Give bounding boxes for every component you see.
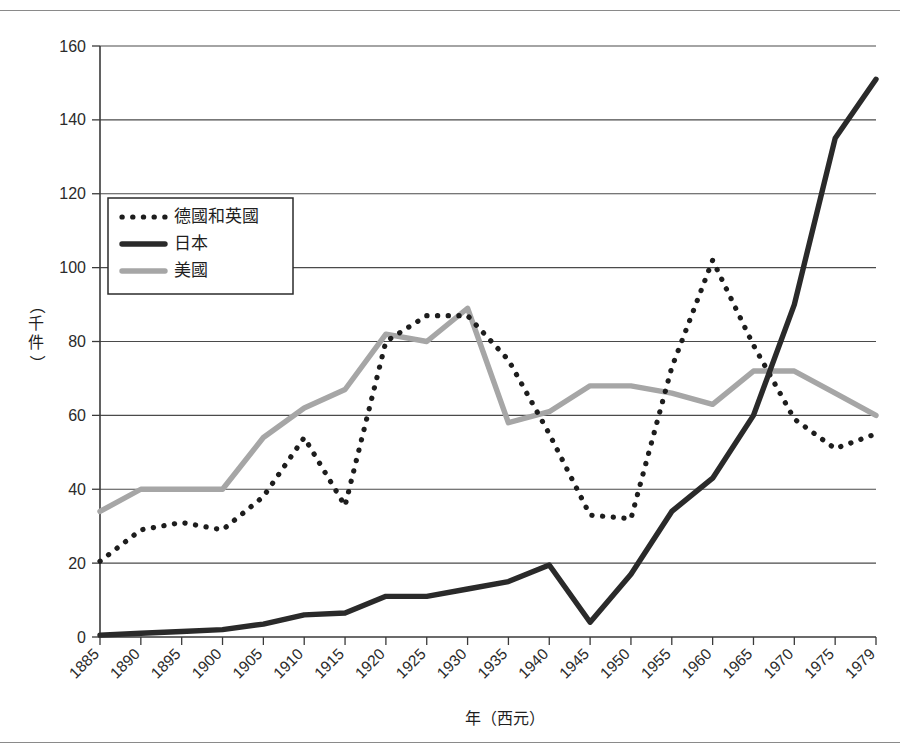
x-tick-label: 1965 [719,645,755,681]
x-tick-label: 1890 [107,645,144,682]
y-tick-label: 100 [59,259,86,276]
series-line [100,260,876,561]
line-chart: 020406080100120140160 188518901895190019… [0,12,900,740]
chart-canvas: 020406080100120140160 188518901895190019… [0,12,900,740]
y-tick-label: 60 [68,407,86,424]
x-tick-label: 1915 [311,645,347,681]
x-tick-label: 1925 [392,645,428,681]
chart-legend: 德國和英國日本美國 [108,198,293,294]
y-axis-ticks: 020406080100120140160 [59,38,100,646]
data-series-group [100,79,876,635]
x-tick-label: 1920 [352,645,389,682]
x-tick-label: 1940 [515,645,552,682]
legend-label: 德國和英國 [174,207,259,226]
y-tick-label: 160 [59,38,86,55]
y-axis-title-char: 千 [28,315,44,332]
chart-page: 020406080100120140160 188518901895190019… [0,0,900,743]
y-axis-title-char: 件 [28,334,44,351]
x-axis-title-label: 年（西元） [465,710,545,727]
x-tick-label: 1895 [147,645,183,681]
x-tick-label: 1930 [433,645,470,682]
legend-label: 日本 [174,234,208,253]
x-tick-label: 1970 [760,645,797,682]
x-tick-label: 1979 [842,645,878,681]
y-tick-label: 40 [68,481,86,498]
legend-label: 美國 [174,261,208,280]
x-tick-label: 1950 [597,645,634,682]
x-tick-label: 1960 [678,645,715,682]
x-tick-label: 1945 [556,645,592,681]
y-tick-label: 0 [77,629,86,646]
x-tick-label: 1900 [188,645,225,682]
x-tick-label: 1955 [638,645,674,681]
x-tick-label: 1935 [474,645,510,681]
y-tick-label: 120 [59,185,86,202]
x-tick-label: 1975 [801,645,837,681]
x-tick-label: 1910 [270,645,307,682]
x-tick-label: 1885 [66,645,102,681]
y-tick-label: 80 [68,333,86,350]
y-axis-title-char: ） [29,355,46,371]
horizontal-gridlines [100,46,876,563]
y-tick-label: 20 [68,555,86,572]
y-tick-label: 140 [59,111,86,128]
top-divider-rule [0,10,900,11]
y-axis-title: （千件） [28,298,46,371]
y-axis-title-char: （ [29,298,46,314]
series-line [100,308,876,511]
x-tick-label: 1905 [229,645,265,681]
x-axis-ticks: 1885189018951900190519101915192019251930… [66,637,878,682]
